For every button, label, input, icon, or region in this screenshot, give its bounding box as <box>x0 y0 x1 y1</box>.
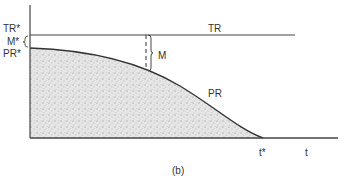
pr-shaded-area <box>30 48 263 138</box>
tr-star-label: TR* <box>3 24 20 34</box>
diagram-canvas <box>0 0 345 181</box>
t-star-label: t* <box>259 148 266 158</box>
pr-label: PR <box>208 89 222 99</box>
figure-caption: (b) <box>172 166 184 176</box>
pr-star-label: PR* <box>3 49 21 59</box>
m-star-label: M* <box>7 37 19 47</box>
t-label: t <box>305 148 308 158</box>
m-brace <box>148 35 153 71</box>
tr-label: TR <box>208 24 221 34</box>
m-star-brace <box>23 36 28 47</box>
m-label: M <box>158 51 166 61</box>
